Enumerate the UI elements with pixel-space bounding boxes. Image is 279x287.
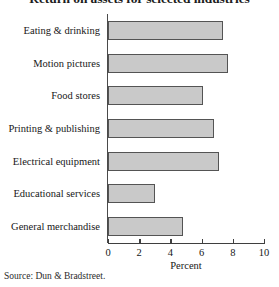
x-tick-mark <box>264 239 265 244</box>
x-tick-label: 8 <box>222 247 244 258</box>
x-tick-mark <box>139 239 140 244</box>
x-axis-title: Percent <box>108 260 264 271</box>
bar <box>108 54 228 73</box>
bar <box>108 119 214 138</box>
source-note: Source: Dun & Bradstreet. <box>4 271 105 281</box>
x-tick-mark <box>202 239 203 244</box>
bar <box>108 184 155 203</box>
x-tick-mark <box>108 239 109 244</box>
x-tick-label: 4 <box>159 247 181 258</box>
x-axis-line <box>108 243 264 244</box>
category-label: Printing & publishing <box>0 123 100 134</box>
plot-area: Eating & drinkingMotion picturesFood sto… <box>0 14 279 246</box>
category-label: Electrical equipment <box>0 156 100 167</box>
x-tick-mark <box>170 239 171 244</box>
category-axis-labels: Eating & drinkingMotion picturesFood sto… <box>0 14 104 246</box>
bar <box>108 217 183 236</box>
x-tick-mark <box>233 239 234 244</box>
bars-layer <box>108 14 279 243</box>
x-tick-label: 2 <box>128 247 150 258</box>
x-tick-label: 10 <box>253 247 275 258</box>
category-label: General merchandise <box>0 221 100 232</box>
x-tick-label: 6 <box>191 247 213 258</box>
category-label: Food stores <box>0 90 100 101</box>
category-label: Eating & drinking <box>0 25 100 36</box>
category-label: Educational services <box>0 188 100 199</box>
category-label: Motion pictures <box>0 58 100 69</box>
chart-title: Return on assets for selected industries <box>0 0 279 7</box>
bar <box>108 86 203 105</box>
bar <box>108 21 223 40</box>
bar <box>108 152 219 171</box>
x-tick-label: 0 <box>97 247 119 258</box>
